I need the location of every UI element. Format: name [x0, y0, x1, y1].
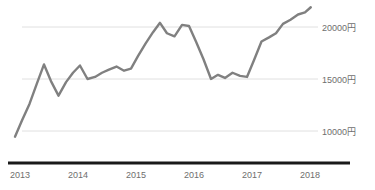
- x-tick-label: 2014: [68, 170, 88, 180]
- line-chart: 10000円15000円20000円 201320142015201620172…: [0, 0, 375, 190]
- x-tick-label: 2016: [184, 170, 204, 180]
- gridlines: [22, 27, 318, 131]
- chart-plot-area: [0, 0, 375, 190]
- y-tick-label: 10000円: [322, 125, 356, 138]
- y-tick-label: 15000円: [322, 73, 356, 86]
- x-tick-label: 2017: [242, 170, 262, 180]
- y-tick-label: 20000円: [322, 21, 356, 34]
- x-tick-label: 2015: [126, 170, 146, 180]
- x-tick-label: 2018: [300, 170, 320, 180]
- x-tick-label: 2013: [10, 170, 30, 180]
